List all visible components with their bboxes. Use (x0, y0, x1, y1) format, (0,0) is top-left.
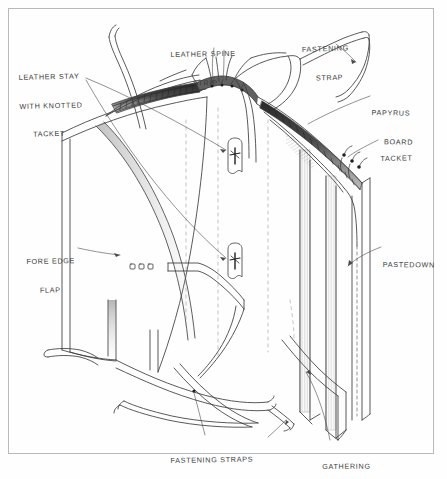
label-fastening-strap: FASTENING STRAP (301, 24, 351, 102)
label-gathering: GATHERING (322, 443, 371, 479)
label-tacket: TACKET (380, 134, 413, 182)
label-pastedown: PASTEDOWN (383, 241, 436, 289)
label-fore-edge-flap: FORE EDGE FLAP (26, 237, 76, 314)
label-leather-stay: LEATHER STAY WITH KNOTTED TACKET (18, 52, 84, 158)
label-leather-spine-strip: LEATHER SPINE STRIP (170, 30, 237, 107)
sketch-sheet: LEATHER STAY WITH KNOTTED TACKET LEATHER… (0, 0, 447, 479)
label-fastening-straps: FASTENING STRAPS (170, 436, 254, 479)
